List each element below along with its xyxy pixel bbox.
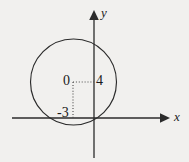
x-value-label: -3 [57,106,69,120]
y-axis-arrow-icon [89,10,99,20]
x-axis-label: x [174,110,180,123]
y-value-label: 4 [96,74,103,88]
y-axis-label: y [101,6,107,19]
coordinate-plane-figure [0,0,189,162]
x-axis-arrow-icon [160,113,170,123]
center-label: 0 [63,74,70,88]
